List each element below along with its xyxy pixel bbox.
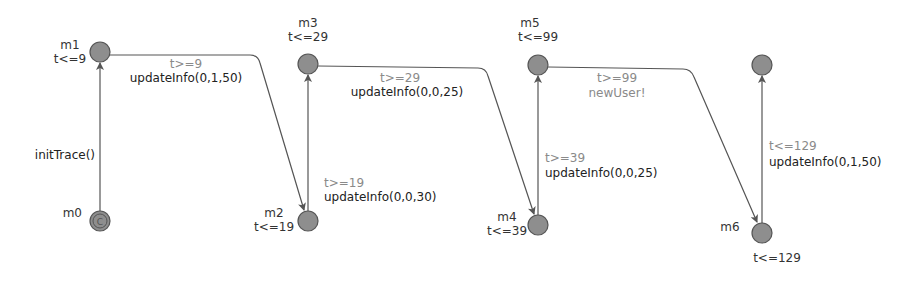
state-name-m3: m3 [298,16,317,30]
state-invariant-m2: t<=19 [254,220,294,234]
state-invariant-m1: t<=9 [54,52,86,66]
state-invariant-m3: t<=29 [288,30,328,44]
edge-m5-m6[interactable] [548,67,757,222]
edge-guard-m5-m6: t>=99 [597,71,637,85]
edge-guard-m6-m7: t<=129 [769,139,817,153]
state-m2[interactable] [298,211,318,231]
state-name-m6: m6 [720,220,739,234]
state-m3[interactable] [298,54,318,74]
state-name-m4: m4 [497,210,516,224]
edge-action-m6-m7: updateInfo(0,1,50) [769,155,882,169]
state-m5[interactable] [528,55,548,75]
state-invariant-m6: t<=129 [753,251,801,265]
edge-guard-m1-m2: t>=9 [170,57,202,71]
state-m6[interactable] [752,223,772,243]
state-name-m0: m0 [63,206,82,220]
edge-action-m1-m2: updateInfo(0,1,50) [130,71,243,85]
state-name-m2: m2 [264,206,283,220]
state-name-m1: m1 [60,38,79,52]
state-m7[interactable] [752,55,772,75]
edge-action-m4-m5: updateInfo(0,0,25) [545,166,658,180]
edge-action-m3-m4: updateInfo(0,0,25) [351,85,464,99]
edge-guard-m2-m3: t>=19 [324,176,364,190]
state-name-m5: m5 [520,16,539,30]
edge-guard-m4-m5: t>=39 [545,151,585,165]
state-invariant-m4: t<=39 [487,224,527,238]
edge-guard-m3-m4: t>=29 [380,71,420,85]
edge-action-m0-m1: initTrace() [35,148,95,162]
svg-text:C: C [97,217,103,227]
state-m1[interactable] [90,42,110,62]
edge-action-m2-m3: updateInfo(0,0,30) [324,190,437,204]
state-m0[interactable]: C [90,211,110,231]
state-invariant-m5: t<=99 [518,30,558,44]
state-m4[interactable] [528,215,548,235]
edge-action-m5-m6: newUser! [589,86,646,100]
